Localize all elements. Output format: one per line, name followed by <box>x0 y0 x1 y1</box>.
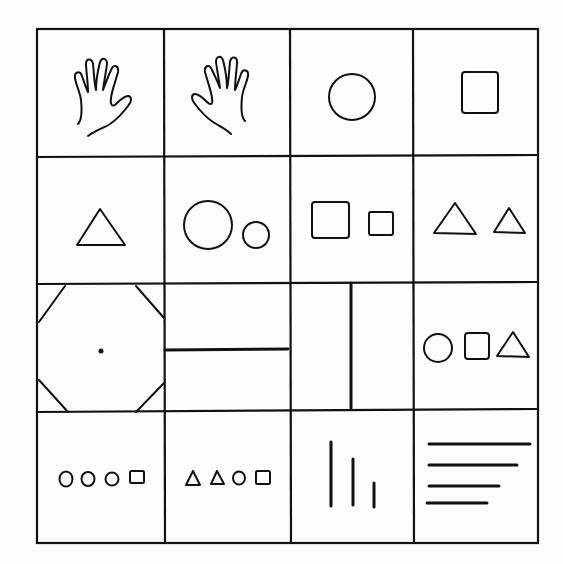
two-triangles-circle-square-icon <box>186 471 270 485</box>
figure-grid <box>0 0 563 564</box>
two-squares-icon <box>312 202 393 238</box>
four-horizontal-lines-icon <box>427 444 530 503</box>
two-circles-icon <box>184 201 269 249</box>
circle-icon <box>329 74 375 120</box>
center-dot-icon <box>99 349 104 354</box>
circle-square-triangle-icon <box>424 332 529 362</box>
octagon-icon <box>39 286 164 412</box>
two-triangles-icon <box>434 203 525 234</box>
three-circles-one-square-icon <box>60 471 145 487</box>
three-vertical-lines-icon <box>331 442 374 507</box>
square-icon <box>462 72 498 113</box>
right-hand-icon <box>192 57 248 134</box>
triangle-icon <box>77 209 125 245</box>
horizontal-divider-line <box>165 349 288 350</box>
left-hand-icon <box>75 59 131 136</box>
